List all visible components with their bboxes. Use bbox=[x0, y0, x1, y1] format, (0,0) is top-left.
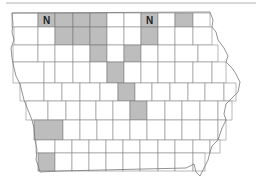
county bbox=[96, 101, 113, 120]
county bbox=[158, 45, 175, 62]
county bbox=[193, 140, 210, 153]
county bbox=[175, 27, 193, 45]
county bbox=[113, 101, 130, 120]
county bbox=[107, 13, 124, 27]
county bbox=[200, 120, 218, 140]
counties-layer bbox=[12, 13, 236, 171]
county bbox=[140, 153, 158, 171]
county bbox=[198, 45, 218, 62]
county bbox=[170, 83, 188, 101]
county-shaded bbox=[141, 27, 158, 45]
county bbox=[135, 83, 152, 101]
county bbox=[73, 62, 90, 83]
county bbox=[140, 140, 158, 153]
county bbox=[48, 101, 66, 120]
county bbox=[152, 83, 170, 101]
county bbox=[89, 140, 106, 153]
county bbox=[212, 62, 226, 83]
county bbox=[73, 45, 90, 62]
county bbox=[107, 27, 124, 45]
county bbox=[90, 62, 107, 83]
county bbox=[38, 45, 55, 62]
county-label-n: N bbox=[146, 15, 153, 26]
county-shaded bbox=[55, 27, 73, 45]
county-shaded bbox=[73, 27, 90, 45]
county bbox=[158, 13, 175, 27]
county-shaded bbox=[38, 153, 55, 171]
county bbox=[124, 62, 141, 83]
county-shaded bbox=[90, 13, 107, 27]
county bbox=[141, 62, 158, 83]
county bbox=[97, 120, 113, 140]
county bbox=[175, 62, 193, 83]
county bbox=[106, 140, 123, 153]
county bbox=[80, 83, 100, 101]
county bbox=[141, 45, 158, 62]
county bbox=[158, 27, 175, 45]
county bbox=[72, 153, 89, 171]
county bbox=[63, 120, 80, 140]
county-shaded bbox=[55, 13, 73, 27]
county bbox=[165, 101, 182, 120]
county bbox=[200, 101, 218, 120]
county bbox=[107, 45, 124, 62]
county bbox=[130, 120, 147, 140]
county bbox=[182, 101, 200, 120]
county bbox=[38, 27, 55, 45]
county bbox=[193, 27, 212, 45]
county-shaded bbox=[118, 83, 135, 101]
county bbox=[55, 45, 73, 62]
county bbox=[44, 83, 62, 101]
county-label-n: N bbox=[43, 15, 50, 26]
county bbox=[72, 140, 89, 153]
county bbox=[158, 140, 175, 153]
county bbox=[100, 83, 118, 101]
county-shaded bbox=[175, 13, 193, 27]
county bbox=[175, 140, 193, 153]
county bbox=[13, 45, 38, 62]
county bbox=[124, 27, 141, 45]
county bbox=[80, 120, 97, 140]
county bbox=[188, 83, 205, 101]
county bbox=[124, 13, 141, 27]
county bbox=[55, 153, 72, 171]
county bbox=[12, 13, 38, 27]
county-shaded bbox=[73, 13, 90, 27]
county bbox=[175, 45, 198, 62]
county bbox=[55, 140, 72, 153]
county bbox=[26, 101, 48, 120]
county bbox=[44, 62, 55, 83]
county bbox=[123, 153, 140, 171]
county bbox=[62, 83, 80, 101]
county bbox=[147, 120, 165, 140]
county bbox=[80, 101, 96, 120]
county bbox=[89, 153, 106, 171]
county-shaded bbox=[34, 120, 63, 140]
county bbox=[205, 83, 224, 101]
county bbox=[224, 83, 236, 101]
iowa-county-map: NN bbox=[0, 0, 261, 189]
county bbox=[165, 120, 182, 140]
county-shaded bbox=[107, 62, 124, 83]
county bbox=[182, 120, 200, 140]
county bbox=[14, 27, 38, 45]
county bbox=[113, 120, 130, 140]
county bbox=[106, 153, 123, 171]
county bbox=[36, 140, 55, 153]
county bbox=[55, 62, 73, 83]
county bbox=[123, 140, 140, 153]
county-shaded bbox=[90, 27, 107, 45]
county bbox=[193, 62, 212, 83]
county-shaded bbox=[90, 45, 107, 62]
county bbox=[147, 101, 165, 120]
county bbox=[66, 101, 80, 120]
county-shaded bbox=[124, 45, 141, 62]
county bbox=[193, 13, 210, 27]
county bbox=[158, 62, 175, 83]
county-shaded bbox=[130, 101, 147, 120]
